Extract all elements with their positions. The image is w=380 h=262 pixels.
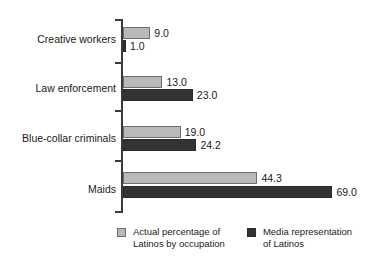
legend-entry-actual: Actual percentage of Latinos by occupati… bbox=[117, 226, 225, 249]
legend-label-media-line1: Media representation bbox=[263, 226, 352, 237]
plot-area: Creative workers 9.0 1.0 Law enforcement… bbox=[0, 0, 380, 216]
value-label-media-maids: 69.0 bbox=[336, 186, 356, 198]
legend-label-actual-line1: Actual percentage of bbox=[133, 226, 220, 237]
value-label-media-creative-workers: 1.0 bbox=[130, 40, 145, 52]
bar-actual-law-enforcement bbox=[123, 76, 162, 88]
axis-tick bbox=[115, 62, 121, 64]
axis-tick bbox=[115, 211, 121, 213]
chart-figure: Creative workers 9.0 1.0 Law enforcement… bbox=[0, 0, 380, 262]
bar-actual-creative-workers bbox=[123, 27, 150, 39]
legend-label-actual-line2: Latinos by occupation bbox=[133, 238, 225, 249]
bar-actual-blue-collar-criminals bbox=[123, 126, 181, 138]
legend-label-actual: Actual percentage of Latinos by occupati… bbox=[133, 226, 225, 249]
category-label-maids: Maids bbox=[88, 183, 116, 195]
axis-tick bbox=[115, 160, 121, 162]
category-label-law-enforcement: Law enforcement bbox=[35, 82, 116, 94]
value-label-actual-maids: 44.3 bbox=[261, 172, 281, 184]
chart-legend: Actual percentage of Latinos by occupati… bbox=[117, 226, 352, 249]
value-label-media-law-enforcement: 23.0 bbox=[197, 89, 217, 101]
bar-media-law-enforcement bbox=[123, 89, 193, 101]
axis-tick bbox=[115, 110, 121, 112]
category-label-creative-workers: Creative workers bbox=[37, 33, 116, 45]
legend-entry-media: Media representation of Latinos bbox=[247, 226, 352, 249]
dark-swatch-icon bbox=[247, 228, 256, 237]
gray-swatch-icon bbox=[117, 228, 126, 237]
value-label-actual-blue-collar-criminals: 19.0 bbox=[185, 126, 205, 138]
bar-actual-maids bbox=[123, 172, 257, 184]
bar-media-creative-workers bbox=[123, 40, 126, 52]
bar-media-maids bbox=[123, 186, 332, 198]
value-label-actual-creative-workers: 9.0 bbox=[154, 27, 169, 39]
category-label-blue-collar-criminals: Blue-collar criminals bbox=[22, 132, 116, 144]
legend-label-media-line2: of Latinos bbox=[263, 238, 304, 249]
value-label-actual-law-enforcement: 13.0 bbox=[166, 76, 186, 88]
axis-tick bbox=[115, 19, 121, 21]
value-label-media-blue-collar-criminals: 24.2 bbox=[200, 139, 220, 151]
legend-label-media: Media representation of Latinos bbox=[263, 226, 352, 249]
bar-media-blue-collar-criminals bbox=[123, 139, 196, 151]
